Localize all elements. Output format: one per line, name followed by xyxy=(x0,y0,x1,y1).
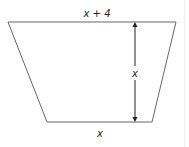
bottom-side-label: x xyxy=(96,128,103,139)
height-label: x xyxy=(131,68,138,79)
trapezoid-shape xyxy=(8,22,176,122)
arrowhead-up-icon xyxy=(133,22,138,27)
trapezoid-diagram: x + 4 x x xyxy=(0,0,189,147)
arrowhead-down-icon xyxy=(133,117,138,122)
top-side-label: x + 4 xyxy=(82,8,110,19)
